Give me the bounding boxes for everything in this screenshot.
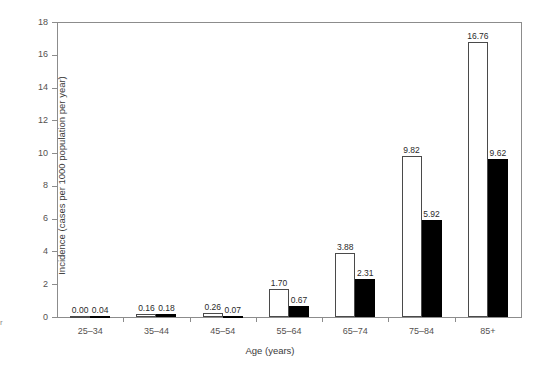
bar-value-label: 2.31 xyxy=(348,269,382,278)
x-axis-tick xyxy=(455,317,456,322)
y-axis-tick xyxy=(52,88,57,89)
bar[interactable] xyxy=(355,279,375,317)
x-axis-category-label: 85+ xyxy=(448,326,528,336)
bar[interactable] xyxy=(289,306,309,317)
y-axis-tick xyxy=(52,317,57,318)
bar[interactable] xyxy=(422,220,442,317)
bar-value-label: 9.62 xyxy=(481,149,515,158)
y-axis-tick-label: 10 xyxy=(26,149,48,158)
bar-value-label: 0.07 xyxy=(216,306,250,315)
y-axis-tick-label: 16 xyxy=(26,50,48,59)
y-axis-tick xyxy=(52,284,57,285)
y-axis-tick xyxy=(52,120,57,121)
bar-chart-figure: r Incidence (cases per 1000 population p… xyxy=(0,0,540,370)
bar[interactable] xyxy=(488,159,508,317)
bar[interactable] xyxy=(468,42,488,317)
y-axis-tick-label: 14 xyxy=(26,83,48,92)
bar-value-label: 9.82 xyxy=(395,146,429,155)
bar-value-label: 1.70 xyxy=(262,279,296,288)
bar-value-label: 16.76 xyxy=(461,32,495,41)
y-axis-tick xyxy=(52,153,57,154)
y-axis-tick-label: 12 xyxy=(26,116,48,125)
bar-value-label: 3.88 xyxy=(328,243,362,252)
y-axis-tick-label: 8 xyxy=(26,181,48,190)
y-axis-tick-label: 6 xyxy=(26,214,48,223)
bar[interactable] xyxy=(156,314,176,317)
x-axis-tick xyxy=(123,317,124,322)
bar-value-label: 5.92 xyxy=(415,210,449,219)
bar-value-label: 0.04 xyxy=(83,306,117,315)
x-axis-line xyxy=(57,317,522,318)
bar[interactable] xyxy=(335,253,355,317)
bar-value-label: 0.67 xyxy=(282,296,316,305)
y-axis-line xyxy=(57,22,58,318)
y-axis-tick-label: 4 xyxy=(26,247,48,256)
plot-top-border xyxy=(57,22,522,23)
y-axis-tick xyxy=(52,55,57,56)
y-axis-tick xyxy=(52,186,57,187)
bar[interactable] xyxy=(402,156,422,317)
x-axis-title: Age (years) xyxy=(0,345,540,356)
y-axis-tick xyxy=(52,22,57,23)
bar[interactable] xyxy=(90,316,110,318)
x-axis-tick xyxy=(190,317,191,322)
y-axis-tick xyxy=(52,251,57,252)
plot-right-border xyxy=(521,22,522,318)
bar[interactable] xyxy=(223,316,243,318)
x-axis-tick xyxy=(388,317,389,322)
bar-value-label: 0.18 xyxy=(149,304,183,313)
y-axis-tick-label: 0 xyxy=(26,313,48,322)
x-axis-tick xyxy=(256,317,257,322)
bar[interactable] xyxy=(70,316,90,318)
cropped-edge-text-fragment: r xyxy=(0,318,6,327)
bar[interactable] xyxy=(136,314,156,317)
y-axis-tick xyxy=(52,219,57,220)
y-axis-tick-label: 2 xyxy=(26,280,48,289)
y-axis-tick-label: 18 xyxy=(26,18,48,27)
x-axis-tick xyxy=(322,317,323,322)
